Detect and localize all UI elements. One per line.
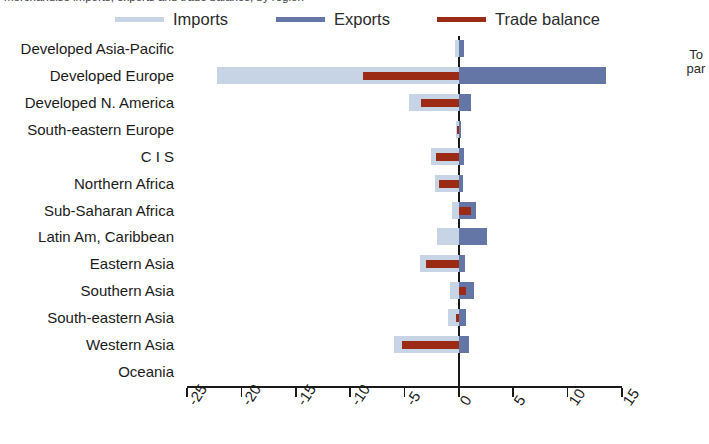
bar-trade-balance (363, 72, 459, 80)
category-label: Northern Africa (0, 171, 174, 198)
category-label: Latin Am, Caribbean (0, 224, 174, 251)
bar-exports (459, 309, 467, 326)
bar-trade-balance (459, 287, 467, 295)
bar-row (187, 332, 622, 359)
bar-trade-balance (436, 153, 459, 161)
category-label: Developed Asia-Pacific (0, 36, 174, 63)
legend-item-exports: Exports (276, 7, 390, 31)
legend-label-trade-balance: Trade balance (495, 11, 600, 28)
bar-exports (459, 40, 464, 57)
bar-row (187, 144, 622, 171)
chart-root: merchandise imports, exports and trade b… (0, 0, 709, 444)
category-label: Developed Europe (0, 63, 174, 90)
category-label: Eastern Asia (0, 251, 174, 278)
bar-trade-balance (402, 341, 459, 349)
right-annotation-line1: To (683, 48, 709, 62)
bar-row (187, 171, 622, 198)
category-label: South-eastern Asia (0, 305, 174, 332)
clipped-caption: merchandise imports, exports and trade b… (0, 0, 709, 7)
bar-trade-balance (426, 260, 459, 268)
bar-row (187, 117, 622, 144)
legend-swatch-exports (276, 17, 325, 22)
category-label: Western Asia (0, 332, 174, 359)
category-label: Oceania (0, 359, 174, 386)
bar-imports (450, 282, 459, 299)
bar-exports (459, 255, 466, 272)
bar-exports (459, 94, 471, 111)
bar-trade-balance (439, 180, 459, 188)
bar-row (187, 278, 622, 305)
plot-area: -25-20-15-10-5051015 (187, 36, 622, 386)
chart-legend: Imports Exports Trade balance (0, 7, 709, 31)
bar-row (187, 63, 622, 90)
bar-exports (459, 67, 606, 84)
bar-exports (459, 228, 487, 245)
bar-trade-balance (459, 207, 471, 215)
bar-row (187, 305, 622, 332)
legend-label-imports: Imports (173, 11, 228, 28)
bar-trade-balance (457, 126, 459, 134)
bar-exports (459, 121, 461, 138)
right-annotation: To par (683, 48, 709, 76)
bar-row (187, 198, 622, 225)
category-label: Southern Asia (0, 278, 174, 305)
legend-swatch-trade-balance (437, 17, 486, 22)
bar-row (187, 90, 622, 117)
bar-row (187, 251, 622, 278)
bar-exports (459, 336, 469, 353)
legend-item-imports: Imports (115, 7, 228, 31)
bar-row (187, 36, 622, 63)
category-label: Developed N. America (0, 90, 174, 117)
bar-trade-balance (456, 314, 459, 322)
x-axis-tick-label: 5 (510, 392, 529, 408)
category-label: South-eastern Europe (0, 117, 174, 144)
bar-row (187, 224, 622, 251)
bar-imports (437, 228, 459, 245)
category-axis-labels: Developed Asia-PacificDeveloped EuropeDe… (0, 36, 182, 386)
x-axis-tick-label: 0 (456, 392, 475, 408)
legend-swatch-imports (115, 17, 164, 22)
bar-imports (452, 202, 459, 219)
legend-label-exports: Exports (334, 11, 390, 28)
bar-exports (459, 148, 464, 165)
category-label: Sub-Saharan Africa (0, 198, 174, 225)
clipped-caption-text: merchandise imports, exports and trade b… (4, 0, 304, 3)
legend-item-trade-balance: Trade balance (437, 7, 600, 31)
right-annotation-line2: par (683, 62, 709, 76)
bar-trade-balance (421, 99, 459, 107)
bar-row (187, 359, 622, 386)
bar-exports (459, 175, 463, 192)
category-label: C I S (0, 144, 174, 171)
